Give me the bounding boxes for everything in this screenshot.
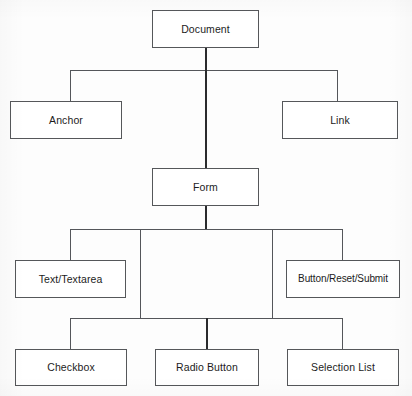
edge-riser-left <box>140 229 141 319</box>
edge-document-to-bus <box>205 48 207 70</box>
node-anchor[interactable]: Anchor <box>10 101 122 139</box>
edge-bus-to-text-textarea <box>70 229 71 260</box>
node-radio-button[interactable]: Radio Button <box>155 349 259 386</box>
node-button-reset-submit[interactable]: Button/Reset/Submit <box>286 260 400 298</box>
node-form[interactable]: Form <box>152 168 259 206</box>
diagram-canvas: Document Anchor Link Form Text/Textarea … <box>0 0 412 396</box>
edge-bus-to-checkbox <box>70 318 71 349</box>
node-text-textarea[interactable]: Text/Textarea <box>15 260 126 298</box>
edge-bus-level1 <box>70 70 338 71</box>
node-checkbox-label: Checkbox <box>47 362 95 373</box>
edge-bus-to-selection-list <box>342 318 343 349</box>
edge-form-to-bus <box>205 206 207 230</box>
node-document[interactable]: Document <box>152 10 259 48</box>
node-text-textarea-label: Text/Textarea <box>39 274 103 285</box>
edge-bus-to-form <box>205 70 207 168</box>
edge-bus-to-anchor <box>70 70 71 101</box>
node-anchor-label: Anchor <box>49 115 83 126</box>
node-button-reset-submit-label: Button/Reset/Submit <box>298 274 388 284</box>
edge-bus-level2-upper <box>70 229 343 230</box>
node-link[interactable]: Link <box>282 101 398 139</box>
node-selection-list[interactable]: Selection List <box>287 349 399 386</box>
edge-bus-to-radio-button <box>206 318 208 349</box>
node-checkbox[interactable]: Checkbox <box>15 349 127 386</box>
edge-bus-to-link <box>337 70 338 101</box>
edge-bus-to-button-group <box>342 229 343 260</box>
edge-riser-right <box>272 229 273 319</box>
node-link-label: Link <box>330 115 350 126</box>
node-radio-button-label: Radio Button <box>176 362 238 373</box>
node-document-label: Document <box>181 24 230 35</box>
node-selection-list-label: Selection List <box>311 362 375 373</box>
node-form-label: Form <box>193 182 218 193</box>
